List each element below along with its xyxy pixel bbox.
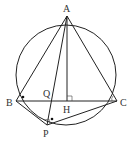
angle-dot-b	[22, 96, 25, 99]
segment-bp	[16, 101, 47, 125]
right-angle-mark-h	[67, 96, 72, 101]
label-h: H	[63, 104, 70, 115]
segment-ac	[67, 16, 117, 101]
label-b: B	[6, 97, 13, 108]
segment-pc	[47, 101, 117, 125]
label-a: A	[63, 3, 71, 14]
angle-mark-c	[112, 96, 113, 101]
angle-dot-p	[51, 118, 54, 121]
label-c: C	[120, 97, 127, 108]
label-q: Q	[43, 88, 51, 99]
label-p: P	[43, 128, 49, 139]
geometry-diagram: A B C H Q P	[0, 0, 131, 143]
